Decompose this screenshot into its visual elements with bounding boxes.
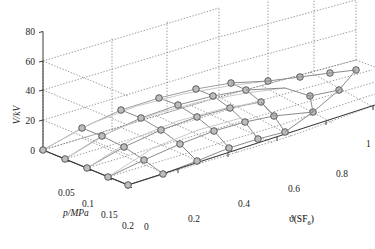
x-tick-label-015: 0.15 [101, 210, 118, 220]
z-tick-labels: 0 20 40 60 80 [26, 27, 36, 156]
y-tick-label-0: 0 [144, 222, 149, 232]
z-tick-label-40: 40 [26, 86, 36, 96]
svg-text:ϑ(SF6): ϑ(SF6) [289, 214, 314, 226]
plot-canvas: 0 20 40 60 80 0.05 0.1 0.15 0.2 0 0.2 0.… [0, 0, 375, 249]
y-tick-label-1: 1 [366, 139, 371, 149]
data-point-markers [40, 67, 360, 189]
z-tick-label-60: 60 [26, 57, 36, 67]
z-axis-tick-top [39, 32, 43, 62]
y-axis-title-base: ϑ(SF [289, 214, 307, 225]
x-tick-label-02: 0.2 [122, 221, 134, 231]
mesh-lines-far-right [231, 70, 356, 132]
y-tick-label-06: 0.6 [288, 184, 300, 194]
x-axis-title: p/MPa [62, 208, 89, 218]
y-axis-title: ϑ(SF6) [289, 214, 314, 226]
y-axis-title-close: ) [311, 214, 314, 225]
y-tick-labels: 0 0.2 0.4 0.6 0.8 1 [144, 139, 371, 232]
x-tick-label-005: 0.05 [58, 188, 75, 198]
z-axis-title: V/kV [12, 105, 22, 125]
z-tick-label-20: 20 [26, 116, 36, 126]
y-tick-label-08: 0.8 [336, 169, 348, 179]
y-tick-label-02: 0.2 [188, 214, 200, 224]
y-tick-label-04: 0.4 [238, 199, 250, 209]
z-tick-label-0: 0 [30, 146, 35, 156]
figure-3d-breakdown-voltage: 0 20 40 60 80 0.05 0.1 0.15 0.2 0 0.2 0.… [0, 0, 375, 249]
mesh-lines-constant-p [43, 83, 285, 185]
back-wall-gridlines [43, 0, 356, 150]
z-tick-label-80: 80 [26, 27, 36, 37]
mesh-lines-constant-theta [43, 83, 285, 185]
z-axis-ticks [39, 61, 43, 151]
